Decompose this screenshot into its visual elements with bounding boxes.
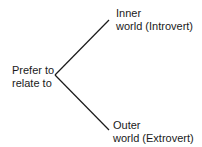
root-label-line1: Prefer to — [12, 64, 54, 77]
inner-world-label: Inner world (Introvert) — [116, 7, 193, 33]
inner-label-line2: world (Introvert) — [116, 20, 193, 33]
upper-branch-line — [55, 20, 109, 75]
root-label: Prefer to relate to — [12, 64, 54, 90]
inner-label-line1: Inner — [116, 7, 193, 20]
outer-world-label: Outer world (Extrovert) — [113, 119, 194, 145]
outer-label-line2: world (Extrovert) — [113, 132, 194, 145]
root-label-line2: relate to — [12, 77, 54, 90]
lower-branch-line — [55, 75, 109, 130]
outer-label-line1: Outer — [113, 119, 194, 132]
